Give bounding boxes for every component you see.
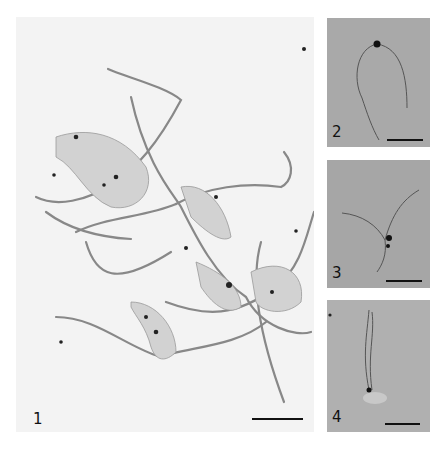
cell-illustration	[327, 300, 430, 432]
panel-4-label: 4	[332, 410, 342, 425]
panel-2-micrograph: 2	[327, 18, 430, 147]
panel-1-micrograph: 1	[16, 17, 314, 432]
bacteria-illustration	[16, 17, 314, 432]
panel-2-label: 2	[332, 125, 342, 140]
cell-illustration	[327, 18, 430, 147]
panel-4-micrograph: 4	[327, 300, 430, 432]
cell-illustration	[327, 160, 430, 288]
panel-3-scale-bar	[386, 280, 422, 282]
panel-4-scale-bar	[385, 423, 420, 425]
panel-1-scale-bar	[252, 418, 303, 420]
panel-1-label: 1	[33, 412, 43, 427]
panel-2-scale-bar	[387, 139, 423, 141]
panel-3-micrograph: 3	[327, 160, 430, 288]
panel-3-label: 3	[332, 266, 342, 281]
